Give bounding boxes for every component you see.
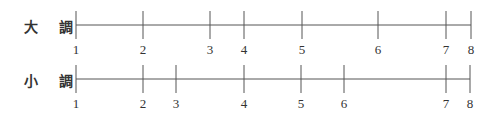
degree-number: 5 xyxy=(298,96,305,111)
degree-number: 1 xyxy=(73,42,80,57)
degree-number: 6 xyxy=(341,96,348,111)
degree-number: 4 xyxy=(241,96,248,111)
degree-number: 6 xyxy=(375,42,382,57)
degree-number: 2 xyxy=(140,42,147,57)
degree-number: 5 xyxy=(299,42,306,57)
degree-number: 3 xyxy=(207,42,214,57)
scale-degree-diagram: 1234567812345678 xyxy=(0,0,496,124)
degree-number: 7 xyxy=(443,96,450,111)
degree-number: 2 xyxy=(140,96,147,111)
degree-number: 1 xyxy=(73,96,80,111)
degree-number: 8 xyxy=(468,42,475,57)
degree-number: 8 xyxy=(467,96,474,111)
degree-number: 4 xyxy=(241,42,248,57)
degree-number: 7 xyxy=(443,42,450,57)
degree-number: 3 xyxy=(173,96,180,111)
